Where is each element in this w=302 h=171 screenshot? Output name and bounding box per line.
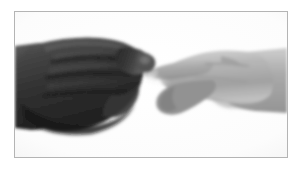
photograph [15,12,287,157]
photo-grain-overlay [15,12,287,157]
photo-frame [14,11,288,158]
screenshot-root [0,0,302,171]
